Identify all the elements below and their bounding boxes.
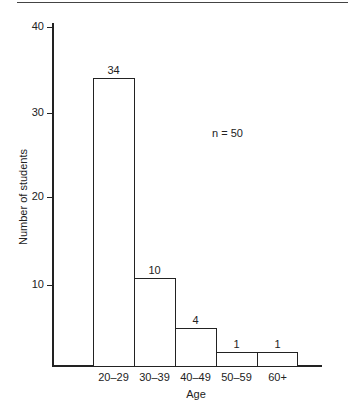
bar-40-49 [175,328,217,367]
x-category-label: 20–29 [93,371,134,383]
bar-60-plus [257,352,298,367]
bar-20-29 [93,78,135,367]
y-tick-label: 10 [14,278,44,290]
top-rule [17,2,348,3]
bar-50-59 [216,352,258,367]
y-tick-30 [47,113,53,114]
y-tick-40 [47,27,53,28]
y-tick-label: 30 [14,106,44,118]
bar-30-39 [134,278,176,367]
bar-value-label: 1 [257,338,298,350]
x-category-label: 50–59 [216,371,257,383]
x-axis-label: Age [185,388,207,400]
y-axis [52,23,54,366]
bar-value-label: 4 [175,314,216,326]
y-axis-label: Number of students [17,149,29,245]
y-tick-10 [47,285,53,286]
y-tick-label: 40 [14,20,44,32]
sample-size-annotation: n = 50 [212,127,243,139]
x-category-label: 60+ [257,371,298,383]
x-category-label: 40–49 [175,371,216,383]
bar-value-label: 34 [93,64,134,76]
bar-value-label: 10 [134,264,175,276]
y-tick-20 [47,197,53,198]
x-category-label: 30–39 [134,371,175,383]
bar-value-label: 1 [216,338,257,350]
